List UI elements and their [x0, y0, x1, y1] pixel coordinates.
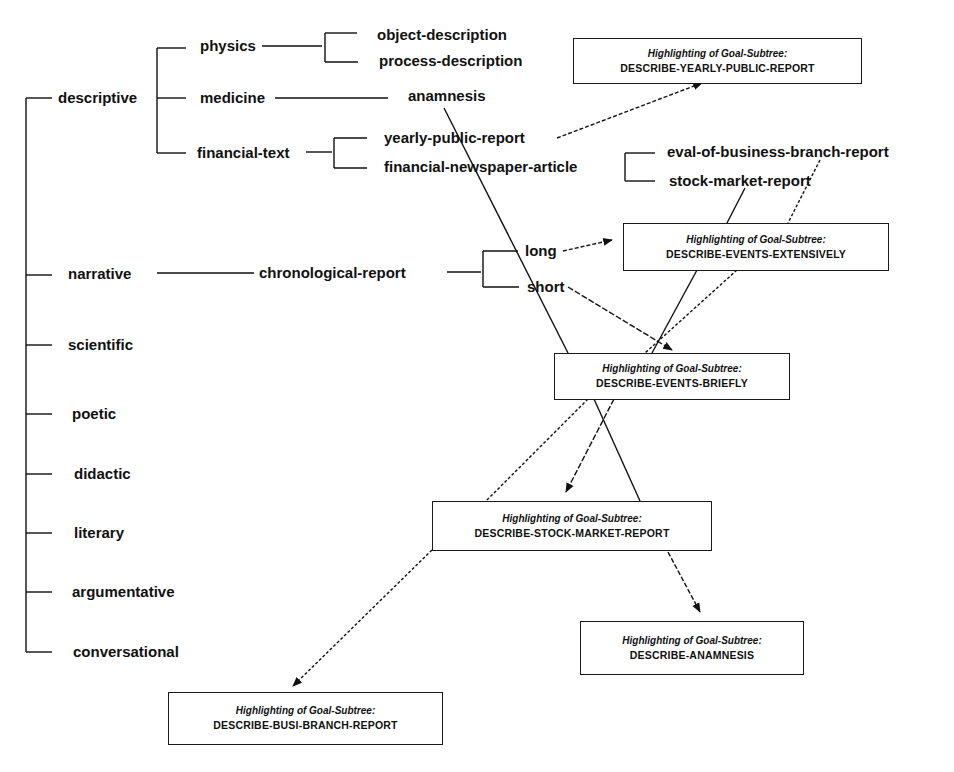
goal-box-stock-market-report: Highlighting of Goal-Subtree: DESCRIBE-S… — [432, 501, 712, 551]
goal-box-goal: DESCRIBE-BUSI-BRANCH-REPORT — [213, 718, 398, 733]
node-physics: physics — [200, 37, 256, 55]
goal-box-goal: DESCRIBE-YEARLY-PUBLIC-REPORT — [620, 61, 814, 76]
goal-box-events-briefly: Highlighting of Goal-Subtree: DESCRIBE-E… — [554, 353, 790, 400]
node-conversational: conversational — [73, 643, 179, 661]
goal-box-anamnesis: Highlighting of Goal-Subtree: DESCRIBE-A… — [580, 621, 804, 675]
goal-box-goal: DESCRIBE-STOCK-MARKET-REPORT — [475, 526, 670, 541]
goal-box-goal: DESCRIBE-EVENTS-BRIEFLY — [596, 376, 748, 391]
node-argumentative: argumentative — [72, 583, 175, 601]
node-object-description: object-description — [377, 26, 507, 44]
goal-box-yearly-public-report: Highlighting of Goal-Subtree: DESCRIBE-Y… — [573, 38, 862, 84]
node-financial-text: financial-text — [197, 144, 290, 162]
goal-box-goal: DESCRIBE-ANAMNESIS — [630, 648, 754, 663]
node-long: long — [525, 242, 557, 260]
goal-box-heading: Highlighting of Goal-Subtree: — [686, 233, 825, 247]
node-stock-market-report: stock-market-report — [669, 172, 811, 190]
node-narrative: narrative — [68, 265, 131, 283]
node-process-description: process-description — [379, 52, 522, 70]
node-literary: literary — [74, 524, 124, 542]
goal-box-busi-branch-report: Highlighting of Goal-Subtree: DESCRIBE-B… — [168, 692, 443, 745]
goal-box-heading: Highlighting of Goal-Subtree: — [622, 634, 761, 648]
goal-box-heading: Highlighting of Goal-Subtree: — [648, 47, 787, 61]
node-anamnesis: anamnesis — [408, 87, 486, 105]
node-medicine: medicine — [200, 89, 265, 107]
node-chronological-report: chronological-report — [259, 264, 406, 282]
goal-box-events-extensively: Highlighting of Goal-Subtree: DESCRIBE-E… — [623, 223, 889, 271]
node-poetic: poetic — [72, 405, 116, 423]
node-descriptive: descriptive — [58, 89, 137, 107]
goal-box-heading: Highlighting of Goal-Subtree: — [236, 704, 375, 718]
node-short: short — [527, 278, 565, 296]
goal-box-heading: Highlighting of Goal-Subtree: — [602, 362, 741, 376]
text-type-goal-diagram: descriptive narrative scientific poetic … — [0, 0, 954, 772]
node-financial-newspaper-article: financial-newspaper-article — [384, 158, 577, 176]
node-didactic: didactic — [74, 465, 131, 483]
node-scientific: scientific — [68, 336, 133, 354]
goal-box-heading: Highlighting of Goal-Subtree: — [502, 512, 641, 526]
node-yearly-public-report: yearly-public-report — [384, 129, 525, 147]
node-eval-of-business-branch-report: eval-of-business-branch-report — [667, 143, 889, 161]
goal-box-goal: DESCRIBE-EVENTS-EXTENSIVELY — [666, 247, 846, 262]
